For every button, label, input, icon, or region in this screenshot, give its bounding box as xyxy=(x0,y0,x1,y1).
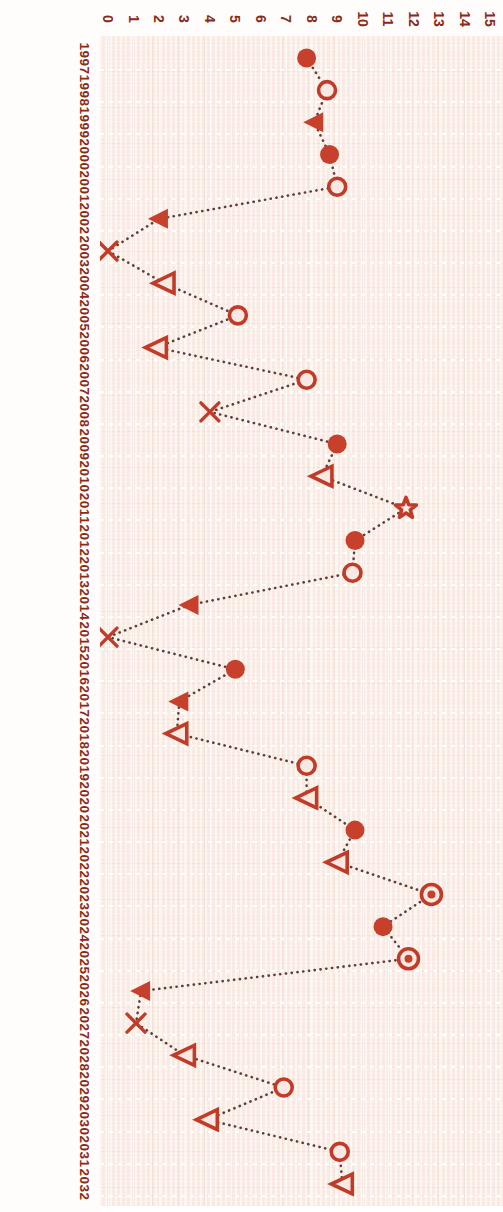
series-svg xyxy=(100,36,503,1206)
data-point-2014[interactable] xyxy=(178,595,198,615)
x-cross-marker xyxy=(201,403,219,421)
data-point-2021[interactable] xyxy=(346,821,365,840)
data-point-2028[interactable] xyxy=(173,1045,194,1065)
open-circle-marker xyxy=(229,307,246,324)
category-tick-label: 2003 xyxy=(76,235,91,267)
open-circle-marker xyxy=(298,757,315,774)
category-tick-1997: 1997 xyxy=(34,42,100,74)
category-tick-2016: 2016 xyxy=(34,653,100,685)
category-tick-2005: 2005 xyxy=(34,299,100,331)
category-tick-2021: 2021 xyxy=(34,814,100,846)
category-tick-label: 2016 xyxy=(76,653,91,685)
data-point-2011[interactable] xyxy=(396,497,417,517)
data-point-2027[interactable] xyxy=(127,1014,145,1032)
data-point-2004[interactable] xyxy=(153,273,174,293)
data-point-2016[interactable] xyxy=(226,660,245,679)
value-tick-label: 0 xyxy=(100,15,116,23)
data-point-2031[interactable] xyxy=(331,1143,348,1160)
category-tick-label: 2010 xyxy=(76,460,91,492)
category-tick-2000: 2000 xyxy=(34,139,100,171)
category-tick-2014: 2014 xyxy=(34,589,100,621)
filled-triangle-marker xyxy=(178,595,198,615)
marker-group xyxy=(100,49,441,1195)
category-tick-label: 2006 xyxy=(76,332,91,364)
plot-area xyxy=(100,36,503,1206)
category-tick-2004: 2004 xyxy=(34,267,100,299)
filled-circle-marker xyxy=(297,49,316,68)
category-tick-label: 2005 xyxy=(76,299,91,331)
category-tick-2028: 2028 xyxy=(34,1039,100,1071)
value-tick-label: 2 xyxy=(151,15,167,23)
category-tick-label: 2026 xyxy=(76,975,91,1007)
category-tick-2011: 2011 xyxy=(34,492,100,524)
value-tick-label: 15 xyxy=(482,11,498,27)
data-point-2005[interactable] xyxy=(229,307,246,324)
data-point-2019[interactable] xyxy=(298,757,315,774)
value-tick-label: 3 xyxy=(176,15,192,23)
data-point-2012[interactable] xyxy=(346,531,365,550)
open-triangle-marker xyxy=(173,1045,194,1065)
data-point-2003[interactable] xyxy=(100,242,117,260)
category-tick-label: 2032 xyxy=(76,1168,91,1200)
category-tick-label: 2007 xyxy=(76,364,91,396)
data-point-2002[interactable] xyxy=(148,209,168,229)
open-triangle-marker xyxy=(326,852,347,872)
category-tick-label: 2023 xyxy=(76,878,91,910)
category-tick-2013: 2013 xyxy=(34,557,100,589)
category-tick-2002: 2002 xyxy=(34,203,100,235)
filled-circle-marker xyxy=(328,435,347,454)
x-cross-marker xyxy=(127,1014,145,1032)
data-point-2026[interactable] xyxy=(130,981,150,1001)
data-point-2000[interactable] xyxy=(320,145,339,164)
category-tick-label: 2027 xyxy=(76,1007,91,1039)
category-tick-2029: 2029 xyxy=(34,1071,100,1103)
category-tick-label: 2018 xyxy=(76,718,91,750)
value-tick-label: 7 xyxy=(278,15,294,23)
data-point-2029[interactable] xyxy=(275,1079,292,1096)
value-tick-label: 9 xyxy=(329,15,345,23)
category-tick-2015: 2015 xyxy=(34,621,100,653)
data-point-2025[interactable] xyxy=(399,949,419,969)
category-tick-label: 2029 xyxy=(76,1071,91,1103)
open-triangle-marker xyxy=(145,338,166,358)
open-triangle-marker xyxy=(196,1110,217,1130)
category-tick-label: 2001 xyxy=(76,171,91,203)
star-marker xyxy=(396,497,417,517)
filled-circle-marker xyxy=(374,917,393,936)
open-circle-marker xyxy=(298,371,315,388)
bottom-margin xyxy=(100,1206,503,1212)
value-axis-top: 0123456789101112131415 xyxy=(0,0,503,36)
filled-triangle-marker xyxy=(148,209,168,229)
data-point-2007[interactable] xyxy=(298,371,315,388)
value-tick-label: 4 xyxy=(202,15,218,23)
value-tick-label: 5 xyxy=(227,15,243,23)
data-point-2008[interactable] xyxy=(201,403,219,421)
data-point-2023[interactable] xyxy=(421,884,441,904)
filled-triangle-marker xyxy=(130,981,150,1001)
category-tick-label: 2015 xyxy=(76,621,91,653)
category-tick-label: 2021 xyxy=(76,814,91,846)
data-point-2013[interactable] xyxy=(344,564,361,581)
data-point-1998[interactable] xyxy=(319,82,336,99)
data-point-1997[interactable] xyxy=(297,49,316,68)
data-point-2009[interactable] xyxy=(328,435,347,454)
category-tick-label: 2011 xyxy=(77,493,92,524)
data-point-2030[interactable] xyxy=(196,1110,217,1130)
data-point-2022[interactable] xyxy=(326,852,347,872)
category-tick-2020: 2020 xyxy=(34,782,100,814)
open-circle-marker xyxy=(329,178,346,195)
data-point-2001[interactable] xyxy=(329,178,346,195)
data-point-2024[interactable] xyxy=(374,917,393,936)
data-point-1999[interactable] xyxy=(303,112,323,132)
data-point-2006[interactable] xyxy=(145,338,166,358)
data-point-2018[interactable] xyxy=(166,724,187,744)
data-point-2015[interactable] xyxy=(100,628,117,646)
category-tick-label: 1998 xyxy=(76,74,91,106)
filled-circle-marker xyxy=(226,660,245,679)
category-tick-2026: 2026 xyxy=(34,975,100,1007)
category-tick-label: 2024 xyxy=(76,911,91,943)
category-tick-2031: 2031 xyxy=(34,1136,100,1168)
value-tick-15: 15 xyxy=(475,4,503,34)
data-point-2010[interactable] xyxy=(311,466,332,486)
category-tick-2017: 2017 xyxy=(34,685,100,717)
